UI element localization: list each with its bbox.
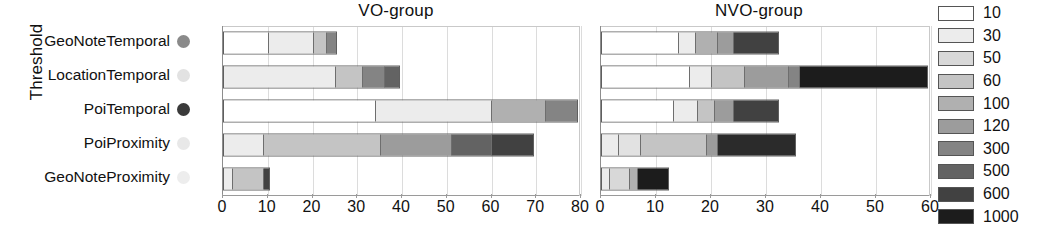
bar-segment[interactable] (789, 67, 800, 88)
stacked-bar[interactable] (223, 168, 270, 191)
bar-segment[interactable] (734, 101, 778, 122)
stacked-bar[interactable] (601, 168, 669, 191)
legend-item[interactable]: 300 (938, 138, 1041, 161)
x-axis-tick-mark (401, 194, 402, 198)
bar-segment[interactable] (707, 135, 718, 156)
bar-segment[interactable] (602, 67, 690, 88)
legend-item[interactable]: 600 (938, 183, 1041, 206)
bar-segment[interactable] (602, 169, 610, 190)
bar-segment[interactable] (696, 33, 718, 54)
x-axis-tick-label: 40 (811, 198, 829, 216)
bar-segment[interactable] (381, 135, 453, 156)
bar-segment[interactable] (602, 135, 619, 156)
bars-nvo-group (601, 26, 929, 196)
bar-segment[interactable] (602, 33, 679, 54)
bar-segment[interactable] (224, 135, 264, 156)
bar-segment[interactable] (363, 67, 385, 88)
x-axis-tick-label: 50 (866, 198, 884, 216)
category-label: PoiTemporal (84, 101, 170, 117)
bar-segment[interactable] (264, 135, 380, 156)
bar-segment[interactable] (546, 101, 577, 122)
legend-item[interactable]: 60 (938, 70, 1041, 93)
bar-segment[interactable] (619, 135, 641, 156)
bar-segment[interactable] (452, 135, 492, 156)
bar-segment[interactable] (224, 33, 269, 54)
bar-segment[interactable] (269, 33, 314, 54)
legend-item[interactable]: 120 (938, 115, 1041, 138)
x-axis-tick-mark (820, 194, 821, 198)
bar-segment[interactable] (745, 67, 789, 88)
stacked-bar[interactable] (601, 66, 928, 89)
bar-segment[interactable] (638, 169, 668, 190)
legend-item[interactable]: 500 (938, 160, 1041, 183)
stacked-bar[interactable] (223, 66, 400, 89)
x-axis-tick-mark (930, 194, 931, 198)
category-label-row: GeoNoteTemporal (18, 24, 190, 58)
legend-item[interactable]: 30 (938, 25, 1041, 48)
category-label: GeoNoteTemporal (44, 33, 170, 49)
bar-segment[interactable] (630, 169, 638, 190)
bar-segment[interactable] (679, 33, 696, 54)
bar-segment[interactable] (690, 67, 712, 88)
legend-item[interactable]: 100 (938, 92, 1041, 115)
bar-segment[interactable] (610, 169, 629, 190)
x-axis-tick-mark (600, 194, 601, 198)
legend-swatch (938, 187, 974, 202)
category-label: GeoNoteProximity (44, 169, 170, 185)
stacked-bar[interactable] (223, 100, 578, 123)
x-axis-tick-label: 70 (526, 198, 544, 216)
panel-nvo-group: NVO-group 0102030405060 (578, 0, 940, 233)
legend: 103050601001203005006001000 (938, 2, 1041, 231)
bar-row (223, 162, 579, 196)
bar-row (601, 128, 929, 162)
stacked-bar[interactable] (223, 134, 534, 157)
bar-segment[interactable] (492, 135, 532, 156)
bar-segment[interactable] (734, 33, 778, 54)
bar-segment[interactable] (264, 169, 268, 190)
bar-segment[interactable] (336, 67, 363, 88)
legend-swatch (938, 6, 974, 21)
panel-title-vo-group: VO-group (200, 1, 592, 21)
legend-item[interactable]: 10 (938, 2, 1041, 25)
x-axis-tick-label: 40 (392, 198, 410, 216)
bar-segment[interactable] (698, 101, 715, 122)
category-label: LocationTemporal (48, 67, 170, 83)
bar-row (223, 94, 579, 128)
bar-row (223, 128, 579, 162)
x-axis-tick-label: 10 (258, 198, 276, 216)
bar-segment[interactable] (233, 169, 264, 190)
bar-segment[interactable] (224, 67, 336, 88)
bar-segment[interactable] (712, 67, 745, 88)
bar-segment[interactable] (327, 33, 336, 54)
bar-segment[interactable] (718, 135, 795, 156)
bar-segment[interactable] (492, 101, 546, 122)
x-axis-tick-mark (710, 194, 711, 198)
x-axis-tick-label: 10 (646, 198, 664, 216)
legend-swatch (938, 96, 974, 111)
stacked-bar[interactable] (601, 100, 779, 123)
bar-segment[interactable] (674, 101, 699, 122)
x-axis-tick-mark (446, 194, 447, 198)
bar-segment[interactable] (314, 33, 327, 54)
bar-segment[interactable] (715, 101, 734, 122)
x-axis-tick-label: 20 (303, 198, 321, 216)
x-axis-tick-mark (875, 194, 876, 198)
stacked-bar[interactable] (601, 134, 796, 157)
bar-segment[interactable] (800, 67, 927, 88)
legend-item[interactable]: 50 (938, 47, 1041, 70)
bar-segment[interactable] (224, 169, 233, 190)
stacked-bar[interactable] (223, 32, 337, 55)
bar-segment[interactable] (385, 67, 398, 88)
bar-segment[interactable] (718, 33, 735, 54)
bar-segment[interactable] (641, 135, 707, 156)
legend-swatch (938, 209, 974, 224)
bar-segment[interactable] (376, 101, 492, 122)
legend-item[interactable]: 1000 (938, 205, 1041, 228)
stacked-bar[interactable] (601, 32, 779, 55)
bar-segment[interactable] (224, 101, 376, 122)
bar-segment[interactable] (602, 101, 674, 122)
x-axis-tick-mark (312, 194, 313, 198)
bar-row (223, 26, 579, 60)
category-marker-dot-icon (177, 103, 190, 116)
x-axis-tick-mark (491, 194, 492, 198)
